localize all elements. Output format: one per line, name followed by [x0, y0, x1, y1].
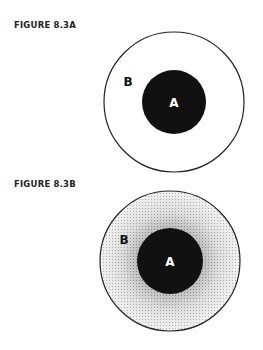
label-a: A [165, 255, 175, 269]
diagram-canvas: B A B A [0, 0, 263, 350]
figure-8-3b: B A [100, 191, 240, 331]
label-b: B [119, 233, 128, 247]
label-b: B [123, 75, 132, 89]
label-a: A [169, 96, 179, 110]
figure-8-3a: B A [104, 32, 244, 172]
